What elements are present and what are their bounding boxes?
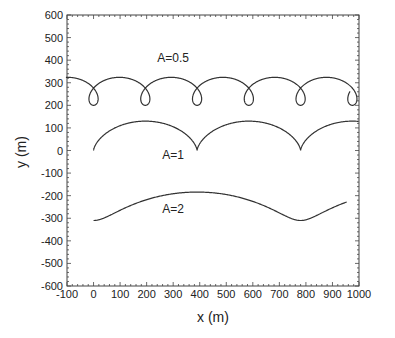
trajectory-curves [66,77,359,220]
x-tick-label: 900 [323,288,341,300]
plot-frame [67,15,359,286]
x-tick-label: 200 [137,288,155,300]
y-tick-label: 0 [57,145,63,157]
x-tick-label: 500 [217,288,235,300]
y-tick-label: 100 [45,122,63,134]
x-tick-label: 300 [164,288,182,300]
y-tick-label: -300 [41,212,63,224]
y-tick-label: -400 [41,235,63,247]
curve-a-2 [94,192,347,220]
annotation-a-0-5: A=0.5 [157,51,189,65]
curve-a-1 [94,121,359,150]
y-tick-label: -100 [41,167,63,179]
y-tick-label: 500 [45,32,63,44]
x-tick-label: 1000 [347,288,371,300]
y-tick-label: 300 [45,77,63,89]
annotation-a-2: A=2 [162,202,184,216]
x-tick-label: 700 [270,288,288,300]
x-tick-labels: -10001002003004005006007008009001000 [56,288,371,300]
x-tick-label: 0 [90,288,96,300]
y-tick-label: -600 [41,280,63,292]
x-tick-label: 800 [297,288,315,300]
y-tick-labels: 6005004003002001000-100-200-300-400-500-… [41,9,63,292]
y-tick-label: -500 [41,257,63,269]
y-tick-label: 200 [45,99,63,111]
x-tick-label: 600 [244,288,262,300]
annotation-a-1: A=1 [162,148,184,162]
x-axis-label: x (m) [197,309,229,325]
y-axis-label: y (m) [13,136,29,168]
x-tick-label: 100 [111,288,129,300]
x-tick-label: 400 [191,288,209,300]
y-tick-label: 600 [45,9,63,21]
y-tick-label: 400 [45,54,63,66]
chart-canvas: -10001002003004005006007008009001000 600… [0,0,395,338]
curve-a-0-5 [66,77,357,105]
axis-ticks [67,15,359,286]
y-tick-label: -200 [41,190,63,202]
